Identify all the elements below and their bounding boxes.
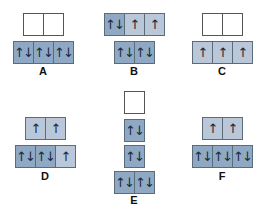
orbital-box-paired: ↑↓ [192, 145, 213, 168]
orbital-row: ↑↑ [25, 117, 66, 139]
orbital-box-paired: ↑↓ [232, 145, 253, 168]
orbital-box-single: ↑ [232, 41, 253, 64]
orbital-box-empty [202, 13, 223, 36]
orbital-box-paired: ↑↓ [114, 171, 135, 194]
orbital-box-empty [222, 13, 243, 36]
orbital-box-single: ↑ [222, 117, 243, 140]
diagram-label: D [35, 170, 55, 182]
orbital-box-single: ↑ [192, 41, 213, 64]
orbital-box-paired: ↑↓ [134, 41, 155, 64]
orbital-row: ↑↑↑ [192, 41, 253, 63]
orbital-box-single: ↑ [25, 117, 46, 140]
orbital-box-single: ↑ [124, 13, 145, 36]
orbital-row [202, 13, 243, 35]
orbital-row: ↑↓↑↓↑↓ [192, 145, 253, 167]
orbital-box-single: ↑ [202, 117, 223, 140]
orbital-box-paired: ↑↓ [35, 145, 56, 168]
orbital-box-paired: ↑↓ [53, 41, 74, 64]
orbital-box-paired: ↑↓ [104, 13, 125, 36]
orbital-row: ↑↓ [124, 119, 145, 141]
orbital-box-paired: ↑↓ [134, 171, 155, 194]
orbital-box-single: ↑ [144, 13, 165, 36]
orbital-row: ↑↑ [202, 117, 243, 139]
orbital-row [23, 13, 64, 35]
orbital-box-paired: ↑↓ [114, 41, 135, 64]
orbital-row: ↑↓↑↓ [114, 41, 155, 63]
orbital-box-paired: ↑↓ [212, 145, 233, 168]
orbital-box-single: ↑ [212, 41, 233, 64]
orbital-row: ↑↓↑↓ [114, 171, 155, 193]
orbital-box-empty [124, 91, 145, 114]
orbital-row: ↑↓↑↓↑ [15, 145, 76, 167]
diagram-label: F [212, 170, 232, 182]
orbital-box-paired: ↑↓ [124, 119, 145, 142]
orbital-row [124, 91, 145, 113]
orbital-box-empty [43, 13, 64, 36]
diagram-label: C [212, 65, 232, 77]
orbital-box-single: ↑ [45, 117, 66, 140]
orbital-row: ↑↓ [124, 145, 145, 167]
orbital-box-paired: ↑↓ [13, 41, 34, 64]
orbital-row: ↑↓↑↓↑↓ [13, 41, 74, 63]
orbital-box-paired: ↑↓ [124, 145, 145, 168]
orbital-box-paired: ↑↓ [33, 41, 54, 64]
orbital-box-single: ↑ [55, 145, 76, 168]
diagram-label: B [124, 65, 144, 77]
orbital-box-empty [23, 13, 44, 36]
orbital-row: ↑↓↑↑ [104, 13, 165, 35]
diagram-label: A [33, 65, 53, 77]
diagram-label: E [124, 194, 144, 206]
orbital-box-paired: ↑↓ [15, 145, 36, 168]
